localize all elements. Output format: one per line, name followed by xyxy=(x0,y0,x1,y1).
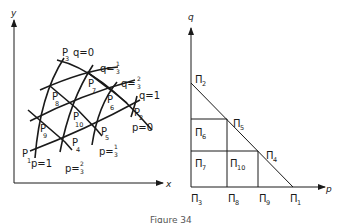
svg-text:2: 2 xyxy=(202,80,206,88)
node-P7: P7 xyxy=(88,78,96,95)
node-Pi9: Π9 xyxy=(259,193,270,207)
p-axis-label: p xyxy=(325,184,332,194)
svg-text:7: 7 xyxy=(92,87,96,95)
node-Pi5: Π5 xyxy=(233,118,244,132)
svg-text:3: 3 xyxy=(198,199,202,207)
svg-text:10: 10 xyxy=(237,164,245,172)
x-axis-label: x xyxy=(165,179,172,189)
node-P4: P4 xyxy=(72,137,80,154)
svg-text:3: 3 xyxy=(65,55,69,63)
svg-text:9: 9 xyxy=(266,199,270,207)
label-p13: p= 1 3 xyxy=(99,143,118,158)
svg-text:2: 2 xyxy=(139,114,143,122)
label-p1: p=1 xyxy=(31,158,52,169)
svg-text:1: 1 xyxy=(114,143,118,150)
node-Pi7: Π7 xyxy=(195,158,206,172)
svg-text:8: 8 xyxy=(55,100,59,108)
node-Pi6: Π6 xyxy=(195,127,206,141)
node-Pi10: Π10 xyxy=(230,158,245,172)
svg-text:7: 7 xyxy=(202,164,206,172)
svg-text:9: 9 xyxy=(43,132,47,140)
label-q13: q= 1 3 xyxy=(100,60,120,75)
node-P2: P2 xyxy=(134,107,143,122)
label-p23: p= 2 3 xyxy=(65,160,84,175)
svg-text:6: 6 xyxy=(110,104,114,112)
node-P1: P1 xyxy=(22,148,31,165)
q-axis-label: q xyxy=(188,12,194,22)
node-P6: P6 xyxy=(107,94,114,112)
svg-text:2: 2 xyxy=(137,75,141,82)
svg-text:4: 4 xyxy=(273,156,277,164)
svg-text:p=: p= xyxy=(65,163,80,174)
svg-text:3: 3 xyxy=(116,68,120,75)
svg-text:3: 3 xyxy=(114,151,118,158)
svg-text:5: 5 xyxy=(240,124,244,132)
svg-text:8: 8 xyxy=(235,199,239,207)
right-panel-parameter-domain: q p Π1 Π2 Π3 Π4 Π5 Π6 Π7 Π8 Π9 Π10 xyxy=(188,12,332,207)
label-p0: p=0 xyxy=(132,122,153,133)
svg-text:2: 2 xyxy=(80,160,84,167)
svg-text:q=: q= xyxy=(100,63,115,74)
figure-caption: Figure 34 xyxy=(150,215,192,223)
svg-text:5: 5 xyxy=(105,134,109,142)
svg-text:1: 1 xyxy=(297,199,301,207)
y-axis-label: y xyxy=(10,8,17,18)
node-Pi3: Π3 xyxy=(191,193,202,207)
svg-text:3: 3 xyxy=(80,168,84,175)
label-q1: q=1 xyxy=(139,90,160,101)
left-panel-physical-domain: y x q=0 q= 1 3 q= 2 3 q=1 p=0 p= xyxy=(10,8,172,189)
node-Pi2: Π2 xyxy=(195,74,206,88)
svg-text:p=: p= xyxy=(99,146,114,157)
svg-text:6: 6 xyxy=(202,133,206,141)
node-Pi8: Π8 xyxy=(228,193,239,207)
mapping-diagram: y x q=0 q= 1 3 q= 2 3 q=1 p=0 p= xyxy=(0,0,344,223)
svg-text:1: 1 xyxy=(27,157,31,165)
node-P5: P5 xyxy=(101,126,109,142)
label-q0: q=0 xyxy=(73,47,94,58)
node-Pi1: Π1 xyxy=(290,193,301,207)
svg-text:10: 10 xyxy=(75,121,83,129)
svg-text:4: 4 xyxy=(76,146,80,154)
svg-text:q=: q= xyxy=(121,78,136,89)
node-Pi4: Π4 xyxy=(266,150,277,164)
svg-text:3: 3 xyxy=(137,83,141,90)
label-q23: q= 2 3 xyxy=(121,75,141,90)
svg-text:1: 1 xyxy=(116,60,120,67)
